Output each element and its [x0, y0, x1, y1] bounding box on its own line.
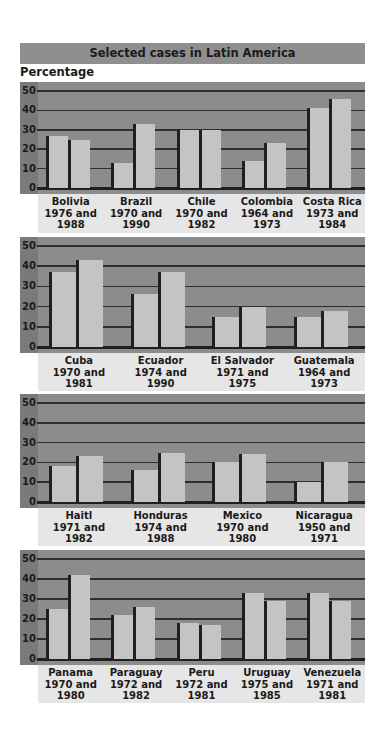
category-label: Honduras 1974 and 1988 [120, 510, 202, 545]
bar-later-year [136, 124, 155, 188]
bar-later-year [136, 607, 155, 659]
y-axis-strip [20, 82, 38, 194]
category-label: Chile 1970 and 1982 [169, 196, 234, 231]
bar-earlier-year [297, 482, 321, 502]
bar-earlier-year [52, 466, 76, 502]
category-label: Uruguay 1975 and 1985 [234, 667, 299, 702]
bar-later-year [324, 462, 348, 502]
y-tick: 40 [22, 261, 36, 271]
bar-earlier-year [49, 136, 68, 188]
y-tick: 20 [22, 457, 36, 467]
bar-later-year [79, 260, 103, 347]
bar-earlier-year [245, 593, 264, 659]
y-tick: 10 [22, 322, 36, 332]
bar-later-year [332, 99, 351, 188]
y-tick: 50 [22, 554, 36, 564]
gridline [37, 402, 365, 404]
y-axis-strip [20, 550, 38, 665]
category-label: Haitl 1971 and 1982 [38, 510, 120, 545]
category-label: Costa Rica 1973 and 1984 [300, 196, 365, 231]
bar-later-year [267, 601, 286, 659]
chart-panel-1: 50403020100Bolivia 1976 and 1988Brazil 1… [20, 82, 365, 233]
plot-area: 50403020100 [20, 394, 365, 508]
category-label: Paraguay 1972 and 1982 [103, 667, 168, 702]
bar-earlier-year [215, 317, 239, 347]
plot-area: 50403020100 [20, 550, 365, 665]
y-axis-label: Percentage [20, 65, 94, 79]
bar-earlier-year [134, 470, 158, 502]
bar-earlier-year [180, 130, 199, 188]
y-tick: 20 [22, 614, 36, 624]
y-tick: 0 [29, 342, 36, 352]
category-label: Cuba 1970 and 1981 [38, 355, 120, 390]
y-tick: 30 [22, 594, 36, 604]
gridline [37, 422, 365, 424]
y-tick: 0 [29, 183, 36, 193]
bar-earlier-year [310, 108, 329, 188]
y-axis-strip [20, 394, 38, 508]
category-label: El Salvador 1971 and 1975 [202, 355, 284, 390]
bar-earlier-year [134, 294, 158, 347]
bar-later-year [161, 453, 185, 503]
bar-later-year [71, 575, 90, 659]
category-label: Mexico 1970 and 1980 [202, 510, 284, 545]
bar-later-year [202, 130, 221, 188]
y-tick: 50 [22, 86, 36, 96]
gridline [37, 90, 365, 92]
category-label: Ecuador 1974 and 1990 [120, 355, 202, 390]
y-tick: 10 [22, 477, 36, 487]
bar-later-year [79, 456, 103, 502]
y-tick: 10 [22, 164, 36, 174]
bar-earlier-year [52, 272, 76, 347]
plot-area: 50403020100 [20, 237, 365, 353]
gridline [37, 558, 365, 560]
y-tick: 20 [22, 302, 36, 312]
bar-later-year [332, 601, 351, 659]
category-label: Nicaragua 1950 and 1971 [283, 510, 365, 545]
y-axis-strip [20, 237, 38, 353]
category-label: Colombia 1964 and 1973 [234, 196, 299, 231]
bar-earlier-year [114, 163, 133, 188]
chart-panel-4: 50403020100Panama 1970 and 1980Paraguay … [20, 550, 365, 703]
y-tick: 30 [22, 125, 36, 135]
y-tick: 0 [29, 654, 36, 664]
gridline [37, 245, 365, 247]
y-tick: 20 [22, 144, 36, 154]
y-tick: 50 [22, 241, 36, 251]
category-labels: Panama 1970 and 1980Paraguay 1972 and 19… [38, 665, 365, 703]
bar-later-year [267, 143, 286, 188]
chart-title: Selected cases in Latin America [20, 43, 365, 64]
bar-later-year [202, 625, 221, 659]
y-tick: 30 [22, 438, 36, 448]
category-label: Panama 1970 and 1980 [38, 667, 103, 702]
category-label: Bolivia 1976 and 1988 [38, 196, 103, 231]
bar-later-year [242, 454, 266, 502]
bar-earlier-year [245, 161, 264, 188]
bar-earlier-year [310, 593, 329, 659]
y-tick: 0 [29, 497, 36, 507]
y-tick: 50 [22, 398, 36, 408]
category-labels: Cuba 1970 and 1981Ecuador 1974 and 1990E… [38, 353, 365, 391]
gridline [37, 442, 365, 444]
y-tick: 30 [22, 281, 36, 291]
chart-panel-2: 50403020100Cuba 1970 and 1981Ecuador 197… [20, 237, 365, 391]
y-tick: 40 [22, 574, 36, 584]
bar-later-year [161, 272, 185, 347]
category-labels: Haitl 1971 and 1982Honduras 1974 and 198… [38, 508, 365, 546]
category-label: Venezuela 1971 and 1981 [300, 667, 365, 702]
bar-earlier-year [297, 317, 321, 347]
bar-later-year [324, 311, 348, 347]
plot-area: 50403020100 [20, 82, 365, 194]
bar-later-year [242, 307, 266, 347]
y-tick: 40 [22, 105, 36, 115]
bar-earlier-year [114, 615, 133, 659]
bar-earlier-year [49, 609, 68, 659]
category-label: Brazil 1970 and 1990 [103, 196, 168, 231]
bar-earlier-year [215, 462, 239, 502]
category-label: Peru 1972 and 1981 [169, 667, 234, 702]
bar-earlier-year [180, 623, 199, 659]
bar-later-year [71, 140, 90, 189]
category-label: Guatemala 1964 and 1973 [283, 355, 365, 390]
y-tick: 40 [22, 418, 36, 428]
chart-panel-3: 50403020100Haitl 1971 and 1982Honduras 1… [20, 394, 365, 546]
